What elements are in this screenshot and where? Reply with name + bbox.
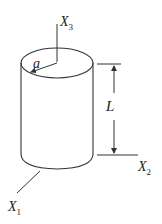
x3-label: X3 xyxy=(59,14,74,32)
x2-label: X2 xyxy=(137,159,151,177)
cylinder-diagram: X3 a L X2 X1 xyxy=(0,0,162,224)
x1-axis xyxy=(17,171,40,193)
length-label: L xyxy=(105,98,114,114)
radius-label: a xyxy=(33,56,40,71)
x1-label: X1 xyxy=(7,199,21,217)
cylinder-bottom-arc xyxy=(21,154,93,169)
